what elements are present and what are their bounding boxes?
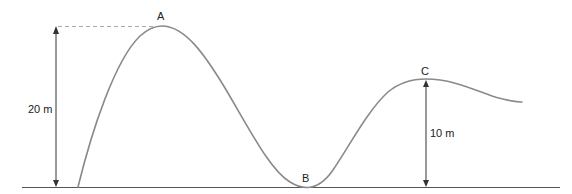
track-curve xyxy=(78,26,522,188)
height-c-label: 10 m xyxy=(430,128,454,139)
point-c-label: C xyxy=(421,66,429,77)
track-diagram: A B C 20 m 10 m xyxy=(0,0,572,194)
track-diagram-svg xyxy=(0,0,572,194)
height-c-arrow-bottom-icon xyxy=(423,180,429,187)
height-c-arrow-top-icon xyxy=(423,80,429,87)
height-a-label: 20 m xyxy=(28,104,52,115)
point-a-label: A xyxy=(157,11,164,22)
point-b-label: B xyxy=(302,173,309,184)
height-a-arrow-bottom-icon xyxy=(53,180,59,187)
height-a-arrow-top-icon xyxy=(53,26,59,34)
